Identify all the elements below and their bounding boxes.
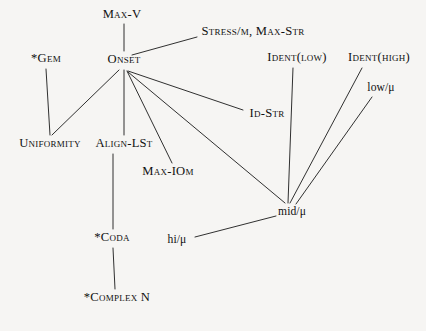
node-max-v: Max-V [103, 8, 142, 21]
node-align-lst-label: Align-LSt [95, 136, 152, 150]
node-ident-high: Ident(high) [348, 51, 410, 64]
node-uniformity: Uniformity [19, 137, 81, 150]
node-low-mu-label: low/μ [367, 81, 394, 94]
edge-coda-to-complex-n [113, 248, 115, 289]
edge-ident-low-to-mid-mu [288, 68, 293, 203]
edge-gem-to-uniformity [46, 69, 50, 135]
node-align-lst: Align-LSt [95, 137, 152, 150]
node-complex-n: *Complex N [84, 291, 150, 304]
node-stress-mu-max-str-label: Stress/μ, Max-Str [202, 24, 305, 38]
node-stress-mu-max-str: Stress/μ, Max-Str [202, 25, 305, 38]
edge-low-mu-to-mid-mu [296, 97, 372, 204]
edge-onset-to-id-str [128, 71, 243, 110]
node-id-str-label: Id-Str [250, 106, 285, 120]
node-low-mu: low/μ [367, 81, 394, 94]
node-hi-mu-label: hi/μ [168, 233, 187, 246]
edge-onset-to-stress-mu [132, 37, 197, 55]
node-max-v-label: Max-V [103, 7, 142, 21]
node-hi-mu: hi/μ [168, 233, 187, 246]
node-ident-low: Ident(low) [267, 51, 327, 64]
node-max-iomu-label: Max-IOμ [142, 164, 193, 178]
node-onset-label: Onset [108, 52, 141, 66]
node-mid-mu-label: mid/μ [278, 205, 306, 218]
node-max-iomu: Max-IOμ [142, 165, 193, 178]
constraint-ranking-diagram: Max-V Stress/μ, Max-Str *Gem Onset Ident… [0, 0, 426, 331]
edge-onset-to-uniformity [52, 70, 119, 135]
node-id-str: Id-Str [250, 107, 285, 120]
node-mid-mu: mid/μ [278, 205, 306, 218]
edge-ident-high-to-mid-mu [290, 68, 362, 203]
node-coda-label: *Coda [94, 230, 129, 244]
node-ident-high-label: Ident(high) [348, 50, 410, 64]
node-uniformity-label: Uniformity [19, 136, 81, 150]
node-onset: Onset [108, 53, 141, 66]
node-gem: *Gem [31, 52, 61, 65]
node-complex-n-label: *Complex N [84, 290, 150, 304]
node-ident-low-label: Ident(low) [267, 50, 327, 64]
node-coda: *Coda [94, 231, 129, 244]
edge-hi-mu-to-mid-mu [195, 216, 276, 237]
node-gem-label: *Gem [31, 51, 61, 65]
